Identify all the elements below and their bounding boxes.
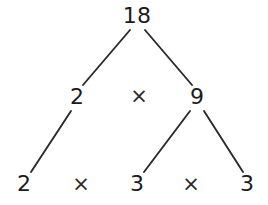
edge-root-to-left-factor — [83, 30, 130, 85]
multiply-icon-level2-first: × — [72, 174, 90, 195]
edge-root-to-right-factor — [145, 30, 192, 85]
multiply-icon-level1: × — [130, 86, 148, 107]
node-leaf-2: 2 — [17, 173, 31, 195]
node-leaf-3a: 3 — [130, 173, 144, 195]
edge-left-factor-to-leaf-2 — [31, 111, 71, 172]
node-leaf-3b: 3 — [240, 173, 254, 195]
node-factor-9: 9 — [190, 86, 204, 108]
multiply-icon-level2-second: × — [182, 174, 200, 195]
node-root-18: 18 — [123, 5, 151, 27]
factor-tree-diagram: 18 2 × 9 2 × 3 × 3 — [0, 0, 268, 205]
edge-right-factor-to-leaf-3b — [204, 111, 243, 172]
edge-right-factor-to-leaf-3a — [144, 111, 190, 172]
node-factor-2: 2 — [70, 86, 84, 108]
